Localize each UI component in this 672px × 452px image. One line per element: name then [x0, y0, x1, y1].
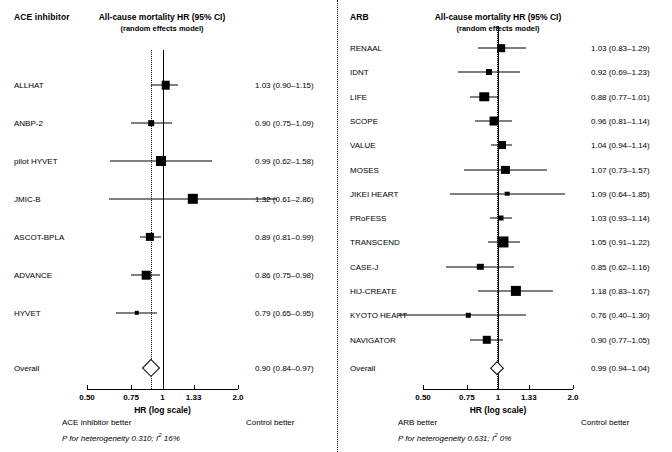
x-axis-title: HR (log scale): [134, 405, 191, 415]
pooled-estimate-line: [497, 26, 498, 389]
study-label: HYVET: [14, 309, 41, 318]
forest-panel-ace-inhibitor: ACE inhibitorAll-cause mortality HR (95%…: [0, 0, 336, 452]
x-axis-tick-label: 0.75: [123, 393, 139, 402]
x-axis-tick-label: 0.50: [415, 393, 431, 402]
study-label: LIFE: [350, 92, 367, 101]
effect-marker: [477, 263, 483, 269]
x-axis-tick-label: 2.0: [567, 393, 578, 402]
x-axis-tick: [467, 385, 468, 389]
x-axis-tick-label: 1.33: [186, 393, 202, 402]
study-estimate-value: 1.09 (0.64–1.85): [591, 189, 650, 198]
effect-marker: [146, 233, 154, 241]
effect-marker: [498, 237, 509, 248]
study-estimate-value: 1.07 (0.73–1.57): [591, 165, 650, 174]
study-estimate-value: 0.89 (0.81–0.99): [255, 233, 314, 242]
effect-marker: [499, 216, 504, 221]
x-axis-tick: [131, 385, 132, 389]
study-estimate-value: 1.04 (0.94–1.14): [591, 141, 650, 150]
study-estimate-value: 0.85 (0.62–1.16): [591, 262, 650, 271]
x-axis-line: [423, 389, 573, 390]
overall-estimate-value: 0.99 (0.94–1.04): [591, 364, 650, 373]
study-estimate-value: 1.03 (0.83–1.29): [591, 44, 650, 53]
overall-label: Overall: [14, 364, 39, 373]
favors-control-label: Control better: [581, 418, 629, 427]
x-axis-tick: [194, 385, 195, 389]
study-label: PRoFESS: [350, 214, 386, 223]
study-estimate-value: 1.03 (0.93–1.14): [591, 214, 650, 223]
study-estimate-value: 0.76 (0.40–1.30): [591, 311, 650, 320]
x-axis-tick: [163, 385, 164, 389]
effect-marker: [188, 194, 198, 204]
x-axis-tick-label: 0.75: [459, 393, 475, 402]
x-axis-tick: [573, 385, 574, 389]
effect-marker: [497, 44, 505, 52]
study-estimate-value: 0.79 (0.65–0.95): [255, 309, 314, 318]
study-estimate-value: 0.86 (0.75–0.98): [255, 271, 314, 280]
study-label: MOSES: [350, 165, 379, 174]
study-estimate-value: 1.05 (0.91–1.22): [591, 238, 650, 247]
overall-label: Overall: [350, 364, 375, 373]
study-label: JIKEI HEART: [350, 189, 398, 198]
study-estimate-value: 1.18 (0.83–1.67): [591, 287, 650, 296]
study-estimate-value: 0.92 (0.69–1.23): [591, 68, 650, 77]
favors-control-label: Control better: [246, 418, 294, 427]
x-axis-tick-label: 1: [160, 393, 164, 402]
study-estimate-value: 1.03 (0.90–1.15): [255, 81, 314, 90]
confidence-interval-line: [399, 315, 527, 316]
study-label: pilot HYVET: [14, 157, 58, 166]
null-effect-line: [498, 26, 499, 389]
effect-marker: [148, 120, 154, 126]
study-label: VALUE: [350, 141, 376, 150]
study-estimate-value: 1.32 (0.61–2.86): [255, 195, 314, 204]
study-label: RENAAL: [350, 44, 382, 53]
x-axis-tick-label: 2.0: [232, 393, 243, 402]
null-effect-line: [163, 50, 164, 389]
forest-panel-arb: ARBAll-cause mortality HR (95% CI)(rando…: [336, 0, 672, 452]
study-estimate-value: 0.90 (0.75–1.09): [255, 119, 314, 128]
effect-marker: [486, 69, 492, 75]
effect-marker: [135, 311, 139, 315]
forest-plot-figure: ACE inhibitorAll-cause mortality HR (95%…: [0, 0, 672, 452]
effect-marker: [142, 271, 151, 280]
measure-header-line1: All-cause mortality HR (95% CI): [62, 12, 262, 22]
favors-treatment-label: ARB better: [398, 418, 437, 427]
effect-marker: [501, 165, 509, 173]
heterogeneity-note: P for heterogeneity 0.631; I2 0%: [398, 432, 511, 443]
x-axis-title: HR (log scale): [470, 405, 527, 415]
x-axis-tick: [238, 385, 239, 389]
x-axis-tick: [87, 385, 88, 389]
study-label: HIJ-CREATE: [350, 287, 397, 296]
study-label: NAVIGATOR: [350, 335, 396, 344]
effect-marker: [505, 191, 510, 196]
overall-diamond: [142, 359, 161, 378]
study-label: ALLHAT: [14, 81, 44, 90]
x-axis-tick-label: 1: [496, 393, 500, 402]
study-label: SCOPE: [350, 116, 378, 125]
study-estimate-value: 0.90 (0.77–1.05): [591, 335, 650, 344]
effect-marker: [466, 313, 470, 317]
pooled-estimate-line: [151, 50, 152, 389]
study-label: TRANSCEND: [350, 238, 400, 247]
study-estimate-value: 0.88 (0.77–1.01): [591, 92, 650, 101]
x-axis-tick: [498, 385, 499, 389]
effect-marker: [479, 92, 488, 101]
study-estimate-value: 0.96 (0.81–1.14): [591, 116, 650, 125]
effect-marker: [489, 116, 498, 125]
heterogeneity-note: P for heterogeneity 0.310; I2 16%: [62, 432, 180, 443]
effect-marker: [498, 141, 506, 149]
x-axis-tick: [529, 385, 530, 389]
study-label: ANBP-2: [14, 119, 43, 128]
favors-treatment-label: ACE inhibitor better: [62, 418, 131, 427]
overall-estimate-value: 0.90 (0.84–0.97): [255, 364, 314, 373]
effect-marker: [482, 335, 490, 343]
measure-header-line1: All-cause mortality HR (95% CI): [398, 12, 598, 22]
effect-marker: [511, 286, 521, 296]
study-label: CASE-J: [350, 262, 378, 271]
study-label: ADVANCE: [14, 271, 52, 280]
study-estimate-value: 0.99 (0.62–1.58): [255, 157, 314, 166]
panel-group-header: ARB: [350, 12, 369, 22]
measure-header-line2: (random effects model): [62, 24, 262, 33]
study-label: ASCOT-BPLA: [14, 233, 64, 242]
effect-marker: [156, 156, 166, 166]
study-label: JMIC-B: [14, 195, 41, 204]
